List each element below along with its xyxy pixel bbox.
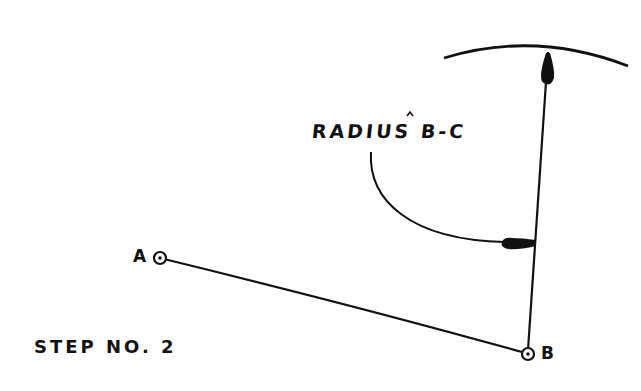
radius-annotation: RADIUS B-C bbox=[311, 120, 468, 142]
leader-curve bbox=[371, 152, 505, 242]
arrowhead-top-icon bbox=[541, 53, 554, 84]
segment-a-b bbox=[164, 259, 522, 352]
step-title: STEP NO. 2 bbox=[34, 336, 177, 357]
radius-line-b-c bbox=[528, 52, 548, 350]
point-a-marker-icon bbox=[154, 252, 166, 264]
point-b-label: B bbox=[541, 343, 554, 363]
accent-mark bbox=[407, 112, 413, 116]
geometry-drawing bbox=[0, 0, 641, 391]
point-b-marker-icon bbox=[522, 348, 534, 360]
diagram-canvas: RADIUS B-C A B STEP NO. 2 bbox=[0, 0, 641, 391]
point-a-label: A bbox=[133, 246, 146, 266]
arc-c bbox=[444, 46, 628, 66]
arrowhead-leader-icon bbox=[502, 238, 536, 249]
